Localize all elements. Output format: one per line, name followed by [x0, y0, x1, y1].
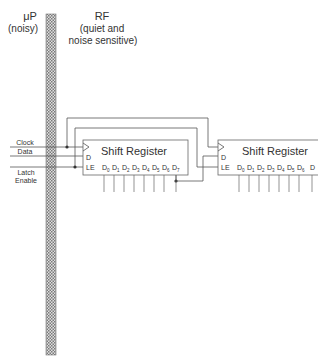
shift-register-2: Shift Register D LE D0 D1 D2 D3 D4 D5 D6…	[218, 140, 318, 192]
output-pins	[104, 175, 176, 192]
clock-label: Clock	[16, 139, 34, 146]
pin-d: D	[221, 154, 226, 161]
diagram-canvas: μP (noisy) RF (quiet and noise sensitive…	[0, 0, 318, 363]
noisy-label: (noisy)	[8, 23, 38, 34]
data-label: Data	[18, 148, 33, 155]
pin-le: LE	[86, 164, 95, 171]
shift-register-1: Shift Register D LE D0 D1 D2 D3 D4 D5 D6…	[83, 140, 188, 192]
quiet-label: (quiet and	[80, 23, 124, 34]
output-pins	[239, 175, 312, 192]
register-title: Shift Register	[101, 145, 167, 157]
microprocessor-label: μP	[23, 10, 37, 22]
register-title: Shift Register	[242, 145, 308, 157]
pin-le: LE	[221, 164, 230, 171]
pin-d: D	[86, 154, 91, 161]
latch-junction	[73, 165, 76, 168]
rf-label: RF	[95, 10, 110, 22]
svg-text:D: D	[310, 164, 315, 171]
noise-sensitive-label: noise sensitive)	[69, 35, 138, 46]
clock-junction	[65, 145, 68, 148]
enable-label: Enable	[15, 177, 37, 184]
latch-label: Latch	[17, 169, 34, 176]
isolation-barrier	[46, 14, 56, 355]
